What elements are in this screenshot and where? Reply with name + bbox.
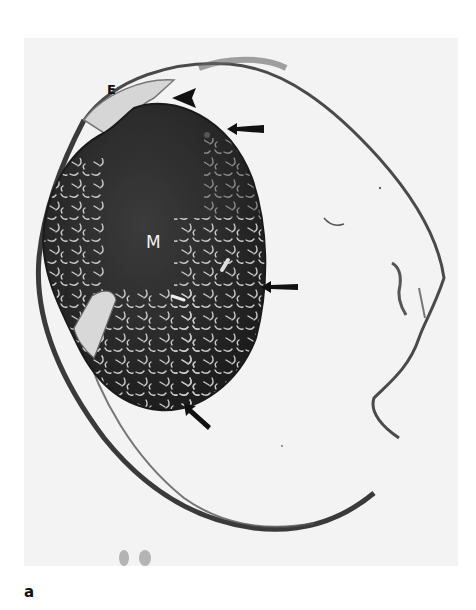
label-vitreous-lower: E [64,288,73,303]
figure-panel: E M E a [0,0,476,610]
histology-micrograph [24,38,458,566]
arrow-bottom [184,404,211,430]
arrow-middle [261,281,298,293]
label-vitreous-upper: E [107,83,116,96]
arrow-upper [227,123,264,135]
panel-letter: a [24,585,34,600]
label-mass: M [146,234,160,251]
micrograph-drawing [24,38,458,566]
